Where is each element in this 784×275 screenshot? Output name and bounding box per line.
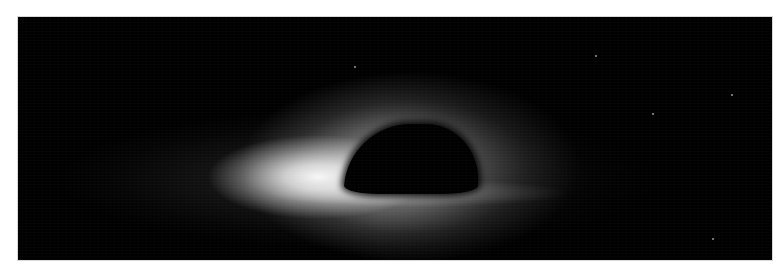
page [0, 0, 784, 275]
star-point [652, 113, 654, 115]
black-hole-shadow [344, 124, 483, 194]
star-point [731, 94, 733, 96]
star-point [712, 238, 714, 240]
star-point [354, 66, 356, 68]
black-hole-image [18, 17, 772, 260]
star-point [595, 55, 597, 57]
